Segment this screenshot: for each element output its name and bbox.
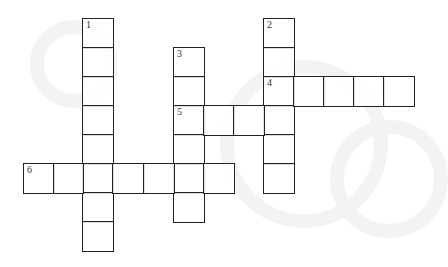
clue-number: 1 bbox=[86, 20, 91, 30]
clue-number: 3 bbox=[177, 49, 182, 59]
crossword-cell[interactable]: 4 bbox=[263, 76, 295, 107]
crossword-cell[interactable]: 1 bbox=[82, 18, 114, 49]
crossword-cell[interactable] bbox=[82, 163, 114, 194]
crossword-cell[interactable] bbox=[383, 76, 415, 107]
crossword-cell[interactable] bbox=[263, 134, 295, 165]
clue-number: 6 bbox=[27, 165, 32, 175]
crossword-cell[interactable] bbox=[82, 76, 114, 107]
crossword-cell[interactable] bbox=[82, 105, 114, 136]
crossword-cell[interactable] bbox=[203, 105, 235, 136]
clue-number: 4 bbox=[267, 78, 272, 88]
crossword-cell[interactable] bbox=[203, 163, 235, 194]
clue-number: 2 bbox=[267, 20, 272, 30]
crossword-cell[interactable] bbox=[173, 192, 205, 223]
crossword-cell[interactable] bbox=[82, 47, 114, 78]
crossword-cell[interactable] bbox=[263, 163, 295, 194]
crossword-cell[interactable] bbox=[173, 76, 205, 107]
crossword-cell[interactable]: 6 bbox=[23, 163, 55, 194]
crossword-cell[interactable] bbox=[353, 76, 385, 107]
crossword-cell[interactable] bbox=[143, 163, 175, 194]
crossword-cell[interactable] bbox=[112, 163, 145, 194]
crossword-cell[interactable] bbox=[263, 105, 295, 136]
crossword-cell[interactable] bbox=[82, 192, 114, 223]
crossword-cell[interactable] bbox=[263, 47, 295, 78]
crossword-cell[interactable]: 2 bbox=[263, 18, 295, 49]
crossword-cell[interactable] bbox=[53, 163, 84, 194]
crossword-cell[interactable] bbox=[82, 221, 114, 252]
crossword-cell[interactable] bbox=[233, 105, 265, 136]
crossword-cell[interactable] bbox=[82, 134, 114, 165]
crossword-cell[interactable]: 5 bbox=[173, 105, 205, 136]
crossword-cell[interactable] bbox=[293, 76, 325, 107]
crossword-cell[interactable] bbox=[173, 134, 205, 165]
crossword-cell[interactable] bbox=[323, 76, 355, 107]
clue-number: 5 bbox=[177, 107, 182, 117]
crossword-cell[interactable] bbox=[173, 163, 205, 194]
crossword-cell[interactable]: 3 bbox=[173, 47, 205, 78]
